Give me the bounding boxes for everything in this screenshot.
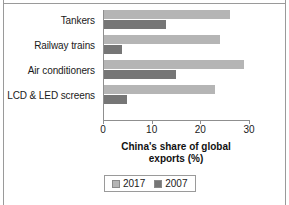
axis-title-line-2: exports (%) [96, 153, 256, 165]
bar-2017 [103, 10, 230, 19]
bar-2017 [103, 35, 220, 44]
legend-item-2017: 2017 [112, 178, 145, 189]
axis-title-line-1: China's share of global [96, 141, 256, 153]
legend-item-2007: 2007 [154, 178, 187, 189]
category-label: LCD & LED screens [0, 83, 99, 108]
bar-2017 [103, 60, 244, 69]
axis-tick-label: 20 [185, 124, 215, 135]
category-label: Air conditioners [0, 58, 99, 83]
category-axis-line [103, 10, 104, 120]
chart-row: Tankers [0, 8, 289, 33]
axis-tick-label: 10 [137, 124, 167, 135]
axis-tick-label: 0 [88, 124, 118, 135]
bar-2007 [103, 20, 166, 29]
chart-legend: 2017 2007 [104, 175, 196, 192]
bar-2007 [103, 95, 127, 104]
value-axis-line [103, 120, 249, 121]
bar-2017 [103, 85, 215, 94]
chart-row: Railway trains [0, 33, 289, 58]
chart-row: Air conditioners [0, 58, 289, 83]
axis-title: China's share of global exports (%) [96, 141, 256, 165]
chart-figure: Tankers Railway trains Air conditioners … [0, 0, 289, 205]
chart-row: LCD & LED screens [0, 83, 289, 108]
axis-tick-label: 30 [234, 124, 264, 135]
legend-label-2007: 2007 [165, 178, 187, 189]
bar-2007 [103, 45, 122, 54]
legend-swatch-icon-2007 [154, 180, 162, 188]
category-label: Tankers [0, 8, 99, 33]
legend-swatch-icon-2017 [112, 180, 120, 188]
plot-area: Tankers Railway trains Air conditioners … [0, 8, 289, 120]
bar-2007 [103, 70, 176, 79]
legend-label-2017: 2017 [123, 178, 145, 189]
page-rule-top [3, 3, 286, 4]
category-label: Railway trains [0, 33, 99, 58]
